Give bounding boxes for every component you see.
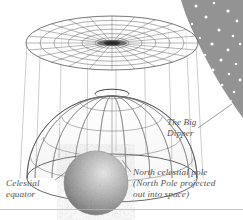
label-north-pole-line2: (North Pole projected [133,178,215,189]
label-north-pole-line1: North celestial pole [133,167,215,178]
label-celestial-equator-line1: Celestial [6,178,40,189]
label-big-dipper-line1: The Big [167,117,197,128]
night-sky-wedge [181,0,243,118]
label-big-dipper: The Big Dipper [167,117,197,139]
label-big-dipper-line2: Dipper [167,128,197,139]
label-celestial-equator: Celestial equator [6,178,40,200]
celestial-pole-disk [26,16,198,70]
label-celestial-equator-line2: equator [6,189,40,200]
label-north-pole-line3: out into space) [133,189,215,200]
earth-globe [64,151,128,215]
leader-big-dipper [198,104,232,128]
label-north-celestial-pole: North celestial pole (North Pole project… [133,167,215,201]
